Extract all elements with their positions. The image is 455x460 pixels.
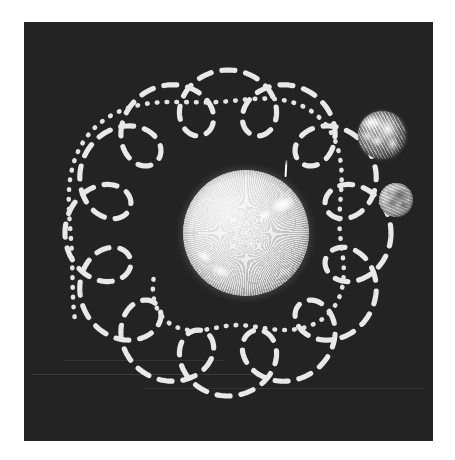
sun-body	[183, 170, 309, 296]
moon-terminator	[379, 183, 413, 217]
earth-terminator	[358, 111, 406, 159]
sky-panel	[24, 22, 433, 441]
astronomy-figure	[0, 0, 455, 460]
sun-limb-darkening	[183, 170, 309, 296]
earth-body	[358, 111, 406, 159]
moon-body	[379, 183, 413, 217]
